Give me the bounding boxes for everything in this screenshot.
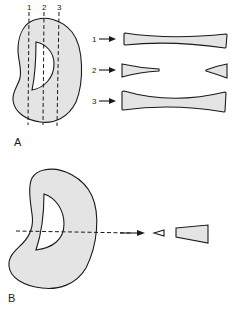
- cross-section-label-2: 2: [92, 66, 97, 75]
- panel-label-a: A: [14, 136, 22, 148]
- cross-section-label-1: 1: [92, 35, 97, 44]
- arrow-1-head: [109, 36, 116, 42]
- panel-b: B: [8, 169, 208, 304]
- arrow-3-head: [109, 98, 116, 104]
- cross-section-3: [122, 91, 226, 112]
- panel-a: 1 2 3 1 2 3 A: [13, 3, 227, 148]
- arrow-2-head: [109, 67, 116, 73]
- cross-section-1: [124, 33, 227, 48]
- arrow-b-head: [137, 230, 145, 236]
- diagram-canvas: 1 2 3 1 2 3 A B: [0, 0, 237, 310]
- panel-label-b: B: [8, 292, 15, 304]
- section-label-2: 2: [42, 3, 47, 12]
- cross-section-label-3: 3: [92, 97, 97, 106]
- cross-section-b-large-wedge: [176, 225, 208, 243]
- cross-section-2-right-wedge: [206, 64, 227, 78]
- cross-section-2-left-wedge: [122, 64, 159, 77]
- section-label-3: 3: [57, 3, 62, 12]
- cross-section-b-small-wedge: [154, 230, 164, 236]
- section-label-1: 1: [27, 3, 32, 12]
